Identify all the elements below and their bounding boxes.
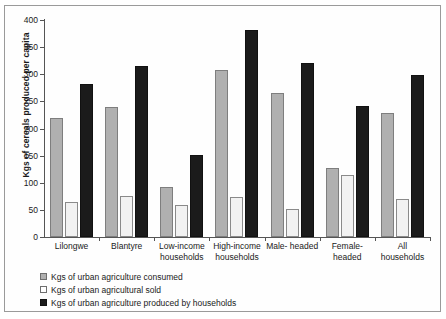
bar-consumed xyxy=(326,168,339,237)
bar-group xyxy=(209,20,264,237)
bar-group xyxy=(99,20,154,237)
bar-consumed xyxy=(215,70,228,237)
legend-swatch-icon xyxy=(40,273,47,280)
bar-sold xyxy=(396,199,409,237)
chart-legend: Kgs of urban agriculture consumedKgs of … xyxy=(40,270,430,309)
legend-item: Kgs of urban agriculture produced by hou… xyxy=(40,296,430,309)
plot-bars-area xyxy=(44,20,430,237)
y-axis-tick-value: 0 xyxy=(12,232,38,242)
bar-consumed xyxy=(160,187,173,237)
bar-consumed xyxy=(381,113,394,237)
x-axis-category-label: Allhouseholds xyxy=(367,241,438,262)
x-axis-tick-labels: LilongweBlantyreLow-incomehouseholdsHigh… xyxy=(44,241,430,269)
bar-produced xyxy=(356,106,369,237)
y-axis-tick-value: 300 xyxy=(12,69,38,79)
legend-swatch-icon xyxy=(40,286,47,293)
bar-produced xyxy=(190,155,203,237)
x-axis-category-label-line: households xyxy=(201,252,272,263)
bar-group xyxy=(320,20,375,237)
bar-group xyxy=(154,20,209,237)
bar-produced xyxy=(245,30,258,237)
y-axis-tick-value: 50 xyxy=(12,205,38,215)
legend-swatch-icon xyxy=(40,299,47,306)
bar-sold xyxy=(65,202,78,237)
bar-group xyxy=(265,20,320,237)
bar-sold xyxy=(175,205,188,237)
bar-sold xyxy=(286,209,299,237)
legend-item-label: Kgs of urban agricultural sold xyxy=(51,285,161,295)
legend-item-label: Kgs of urban agriculture consumed xyxy=(51,272,183,282)
bar-produced xyxy=(301,63,314,237)
y-axis-tick-value: 250 xyxy=(12,96,38,106)
bar-sold xyxy=(120,196,133,237)
bar-consumed xyxy=(271,93,284,237)
y-axis-tick-value: 100 xyxy=(12,178,38,188)
bar-sold xyxy=(341,175,354,237)
bar-consumed xyxy=(105,107,118,237)
bar-produced xyxy=(135,66,148,237)
bar-produced xyxy=(80,84,93,237)
bar-group xyxy=(44,20,99,237)
bar-consumed xyxy=(50,118,63,237)
bar-produced xyxy=(411,75,424,237)
y-axis-tick-value: 400 xyxy=(12,15,38,25)
bar-group xyxy=(375,20,430,237)
legend-item-label: Kgs of urban agriculture produced by hou… xyxy=(51,298,236,308)
legend-item: Kgs of urban agriculture consumed xyxy=(40,270,430,283)
y-axis-tick-value: 200 xyxy=(12,124,38,134)
x-axis-line xyxy=(44,237,430,238)
x-axis-category-label-line: households xyxy=(367,252,438,263)
legend-item: Kgs of urban agricultural sold xyxy=(40,283,430,296)
bar-sold xyxy=(230,197,243,237)
y-axis-tick-value: 350 xyxy=(12,42,38,52)
chart-figure: Kgs of cereals produced per capita 40035… xyxy=(0,0,446,319)
x-axis-category-label-line: All xyxy=(367,241,438,252)
y-axis-tick-value: 150 xyxy=(12,151,38,161)
y-axis-tick-mark xyxy=(40,237,45,238)
